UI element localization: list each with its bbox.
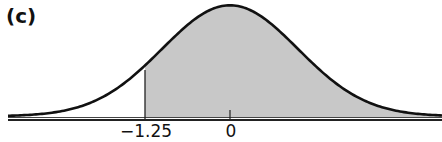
tick-label-neg125: −1.25 (120, 121, 172, 141)
tick-label-zero: 0 (226, 121, 237, 141)
normal-curve-chart (0, 0, 442, 142)
